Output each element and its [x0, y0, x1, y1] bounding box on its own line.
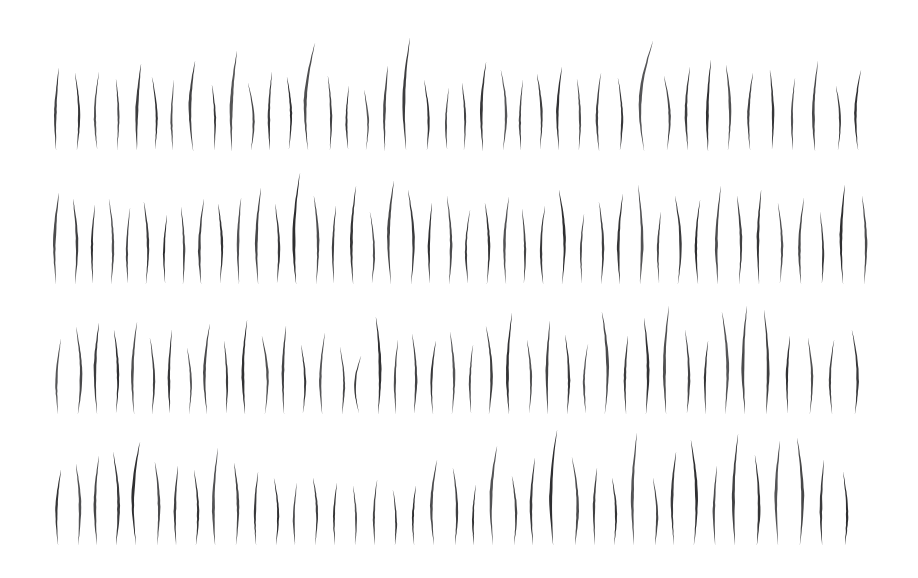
tally-mark: [109, 199, 114, 284]
tally-mark: [715, 186, 721, 284]
tally-mark: [55, 470, 61, 545]
tally-mark: [757, 190, 762, 284]
tally-mark: [565, 335, 570, 414]
tally-mark: [340, 347, 345, 414]
tally-mark: [549, 430, 557, 545]
tally-mark: [345, 86, 349, 149]
tally-mark: [94, 323, 99, 414]
tally-mark: [545, 321, 550, 414]
tally-mark: [126, 208, 130, 283]
tally-mark: [402, 38, 410, 150]
tally-mark: [631, 433, 637, 545]
tally-mark: [234, 463, 239, 545]
tally-mark: [94, 72, 99, 149]
tally-mark: [778, 203, 783, 283]
tally-mark: [292, 173, 300, 284]
tally-mark: [490, 446, 498, 545]
tally-mark: [135, 64, 141, 150]
tally-mark: [812, 61, 818, 151]
tally-mark: [638, 185, 643, 284]
tally-mark: [854, 70, 861, 150]
tally-mark: [333, 483, 337, 545]
tally-mark: [304, 43, 316, 150]
tally-mark: [408, 190, 415, 284]
tally-mark: [653, 478, 658, 545]
tally-mark: [393, 490, 397, 545]
tally-mark: [313, 478, 318, 545]
tally-mark: [75, 73, 80, 150]
tally-mark: [695, 200, 700, 284]
tally-mark: [354, 356, 361, 413]
tally-mark: [370, 212, 375, 283]
tally-mark: [445, 88, 449, 149]
tally-mark: [540, 206, 545, 284]
tally-mark: [704, 341, 708, 414]
tally-mark: [287, 77, 292, 149]
tally-mark: [617, 194, 623, 284]
tally-mark: [512, 476, 517, 545]
tally-mark: [503, 197, 509, 284]
tally-mark: [774, 441, 780, 545]
tally-mark: [319, 333, 325, 414]
tally-mark: [353, 486, 357, 545]
tally-mark: [91, 205, 95, 283]
tally-mark: [212, 85, 216, 150]
tally-mark: [462, 83, 466, 150]
tally-mark: [612, 478, 617, 545]
tally-mark: [671, 452, 676, 545]
tally-mark: [706, 60, 711, 151]
tally-mark: [248, 83, 255, 150]
tally-mark: [839, 185, 844, 284]
tally-mark: [73, 199, 78, 284]
tally-mark: [602, 312, 609, 414]
tally-mark: [572, 457, 579, 545]
tally-mark: [194, 470, 199, 545]
tally-mark: [203, 324, 210, 414]
tally-mark: [181, 207, 185, 284]
tally-mark: [755, 455, 761, 545]
tally-mark: [485, 203, 490, 284]
tally-mark: [791, 78, 795, 150]
tally-mark: [486, 326, 493, 414]
tally-mark: [412, 486, 416, 545]
tally-mark: [424, 80, 430, 150]
tally-mark: [155, 462, 161, 545]
tally-mark: [268, 72, 272, 150]
tally-mark: [152, 77, 158, 149]
tally-mark: [170, 80, 174, 150]
tally-mark: [224, 341, 228, 413]
tally-mark: [559, 190, 566, 284]
tally-mark: [241, 320, 247, 414]
tally-mark: [301, 345, 306, 413]
tally-mark: [114, 330, 119, 413]
tally-mark: [522, 209, 526, 283]
tally-mark: [350, 186, 356, 284]
tally-mark: [726, 65, 731, 150]
tally-mark: [131, 322, 137, 414]
tally-mark: [741, 306, 747, 414]
tally-mark: [530, 458, 535, 545]
tally-mark: [394, 340, 398, 414]
tally-mark: [798, 198, 804, 284]
tally-mark: [314, 196, 320, 284]
tally-mark: [54, 68, 59, 150]
tally-mark: [480, 62, 486, 151]
tally-mark: [675, 196, 682, 284]
stroke-row-1: [54, 38, 861, 151]
tally-mark: [144, 202, 149, 284]
tally-mark: [624, 336, 628, 414]
tally-mark: [465, 210, 470, 283]
tally-mark: [412, 334, 417, 413]
tally-mark: [596, 73, 601, 151]
tally-mark: [501, 70, 507, 150]
tally-mark: [737, 196, 742, 284]
tally-mark: [472, 485, 476, 545]
tally-mark: [275, 204, 280, 283]
tally-mark: [506, 313, 512, 414]
tally-mark: [747, 73, 753, 150]
tally-mark: [383, 66, 388, 151]
tally-mark: [556, 67, 562, 150]
tally-mark: [332, 206, 336, 283]
tally-mark: [430, 460, 437, 545]
tally-mark: [55, 339, 61, 414]
